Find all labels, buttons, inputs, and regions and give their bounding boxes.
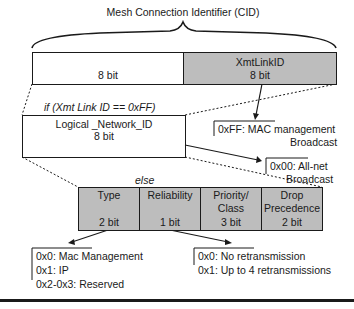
reliability-label: Reliability xyxy=(140,189,200,201)
mac-mgmt-annotation-line1: 0xFF: MAC management xyxy=(218,123,335,135)
xmtlinkid-field: XmtLinkID 8 bit xyxy=(184,53,336,84)
cid-title: Mesh Connection Identifier (CID) xyxy=(0,6,354,18)
xmtlinkid-label: XmtLinkID xyxy=(184,56,336,68)
all-net-annotation-line1: 0x00: All-net xyxy=(270,160,328,172)
drop-size: 2 bit xyxy=(262,216,322,228)
reliability-value-0: 0x0: No retransmission xyxy=(198,250,305,262)
xmtlinkid-size: 8 bit xyxy=(184,69,336,81)
type-value-1: 0x1: IP xyxy=(36,264,69,276)
logical-network-id-box: Logical _Network_ID 8 bit xyxy=(22,115,186,158)
type-size: 2 bit xyxy=(79,216,139,228)
all-net-annotation-line2: Broadcast xyxy=(286,173,333,185)
type-label: Type xyxy=(79,189,139,201)
condition-label: if (Xmt Link ID == 0xFF) xyxy=(44,101,155,113)
mac-mgmt-annotation-line2: Broadcast xyxy=(290,136,337,148)
cid-field-box: 8 bit XmtLinkID 8 bit xyxy=(32,52,337,85)
else-label: else xyxy=(135,174,154,186)
drop-precedence-field: Drop Precedence 2 bit xyxy=(262,188,322,230)
type-value-0: 0x0: Mac Management xyxy=(36,250,143,262)
subfield-box: Type 2 bit Reliability 1 bit Priority/ C… xyxy=(78,187,323,231)
reliability-size: 1 bit xyxy=(140,216,200,228)
logical-network-id-label: Logical _Network_ID xyxy=(23,118,185,130)
logical-network-id-size: 8 bit xyxy=(23,130,185,142)
priority-label: Priority/ xyxy=(201,189,261,201)
drop-label: Drop xyxy=(262,189,322,201)
type-field: Type 2 bit xyxy=(79,188,140,230)
priority-size: 3 bit xyxy=(201,216,261,228)
type-value-2: 0x2-0x3: Reserved xyxy=(36,278,124,290)
priority-class-field: Priority/ Class 3 bit xyxy=(201,188,262,230)
reliability-field: Reliability 1 bit xyxy=(140,188,201,230)
cid-left-field: 8 bit xyxy=(33,53,184,84)
class-label: Class xyxy=(201,202,261,214)
precedence-label: Precedence xyxy=(262,202,322,214)
reliability-value-1: 0x1: Up to 4 retransmissions xyxy=(198,264,331,276)
cid-left-size: 8 bit xyxy=(33,69,183,81)
